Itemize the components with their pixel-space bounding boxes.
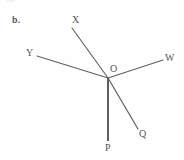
label-Q: Q xyxy=(139,129,146,139)
ray-OQ xyxy=(108,78,138,129)
ray-OY xyxy=(37,56,108,78)
label-O: O xyxy=(110,64,117,74)
label-X: X xyxy=(72,15,79,25)
rays-canvas xyxy=(0,0,184,160)
label-W: W xyxy=(165,53,174,63)
label-P: P xyxy=(105,143,111,153)
label-Y: Y xyxy=(26,48,33,58)
geometry-figure: b. X Y W O Q P xyxy=(0,0,184,160)
ray-OX xyxy=(72,28,108,78)
